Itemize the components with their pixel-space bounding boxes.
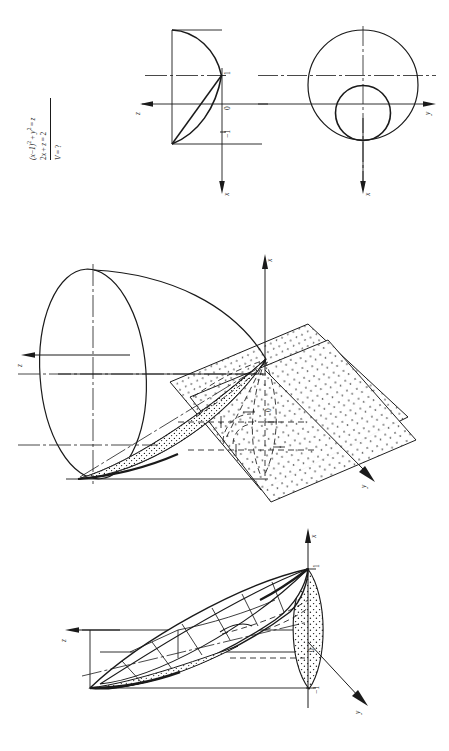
drawing-page: (x−1)2 + y2 = z 2x + z = 2 V = ? [0,0,449,751]
equation-surface: (x−1)2 + y2 = z [24,40,38,160]
tick-label-0-front: 0 [223,106,232,110]
parabola-profile [172,30,222,76]
axis-z-solid [65,627,120,633]
figure-axonometric-solid: x z y 1 0 −1 [60,512,400,742]
axis-label-z-solid: z [59,639,68,643]
equation-volume-question: V = ? [53,40,64,160]
cutting-chord [172,76,222,145]
axis-y-side-arrow [423,101,436,107]
figure-orthographic-projections: 1 0 −1 z x y x [150,18,440,203]
tick-label-minus1-front: −1 [223,130,232,138]
tick-label-minus1-solid: −1 [312,686,321,694]
axis-label-x-front: x [222,192,231,197]
problem-statement: (x−1)2 + y2 = z 2x + z = 2 V = ? [24,42,144,162]
tick-label-1-solid: 1 [312,564,321,568]
oblique-elliptical-cone [90,569,308,689]
equation-plane: 2x + z = 2 [38,40,49,160]
axis-label-y-middle: y [359,484,368,489]
axis-label-z-middle: z [15,364,24,368]
axis-label-y-side: y [423,111,432,116]
axis-x-side [360,118,366,194]
origin-label-middle: 0 [264,408,273,412]
axis-label-x-side: x [363,192,372,197]
tick-label-0-solid: 0 [307,648,316,652]
axis-label-x-solid: x [309,534,318,539]
axis-label-z-front: z [133,112,142,116]
axis-label-x-middle: x [265,258,274,263]
tick-label-1-front: 1 [223,71,232,75]
figure-axonometric-planes: x z y 0 [18,212,418,502]
equation-rule [50,98,51,160]
axis-label-y-solid: y [353,710,362,715]
